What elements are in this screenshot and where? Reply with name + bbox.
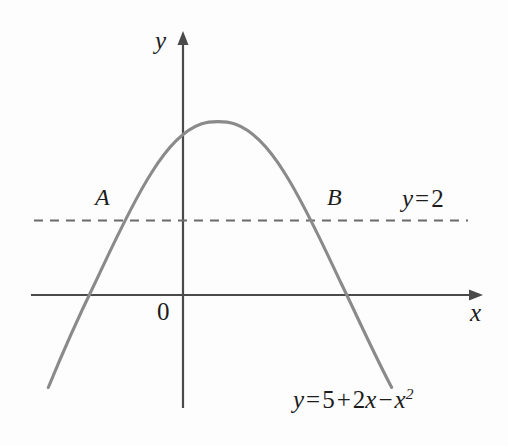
point-b-label: B [327,185,342,209]
origin-label: 0 [157,299,170,324]
y-axis-arrowhead [178,31,189,45]
line-eq-value: 2 [431,185,444,212]
curve-eq-exponent: 2 [406,385,414,402]
line-eq-equals: = [413,185,431,212]
curve-eq-const: 5 [322,386,335,413]
curve-eq-linear-var: x [365,386,376,413]
plot-canvas [0,0,508,446]
curve-eq-minus: − [376,386,394,413]
x-axis [31,290,483,301]
curve-eq-plus: + [335,386,353,413]
y-axis-label: y [155,28,166,53]
curve-equation-label: y=5+2x−x2 [293,386,413,412]
curve-eq-quad-var: x [395,386,406,413]
curve-eq-linear-coef: 2 [353,386,366,413]
line-equation-label: y=2 [402,186,444,211]
parabola-curve [48,122,391,388]
curve-eq-equals: = [304,386,322,413]
point-a-label: A [95,185,110,209]
math-figure: y x 0 A B y=2 y=5+2x−x2 [0,0,508,446]
line-eq-lhs: y [402,185,413,212]
x-axis-label: x [470,300,481,325]
curve-eq-lhs: y [293,386,304,413]
